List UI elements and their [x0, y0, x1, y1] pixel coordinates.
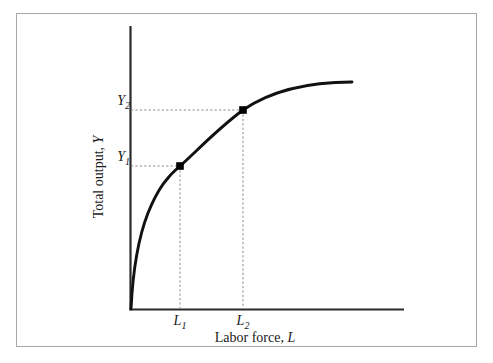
data-point-marker-2 — [239, 106, 247, 114]
production-function-plot — [0, 0, 493, 363]
y-axis-title: Total output, Y — [92, 77, 106, 277]
x-axis-tick-label-l1: L1 — [160, 314, 200, 331]
data-point-marker-1 — [176, 162, 184, 170]
production-function-curve — [131, 82, 352, 309]
figure-root: Y2 Y1 L1 L2 Labor force, L Total output,… — [0, 0, 493, 363]
x-axis-title: Labor force, L — [195, 331, 315, 345]
x-axis-tick-label-l2: L2 — [223, 314, 263, 331]
